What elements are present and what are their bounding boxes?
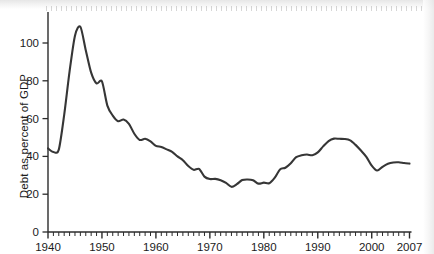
y-tick-label: 60 bbox=[26, 113, 39, 125]
debt-gdp-series-line bbox=[48, 26, 410, 187]
x-tick-label: 1990 bbox=[305, 241, 331, 253]
chart-plot-area: 020406080100 194019501960197019801990200… bbox=[0, 0, 434, 254]
x-tick-label: 1980 bbox=[251, 241, 277, 253]
x-tick-label: 2007 bbox=[397, 241, 423, 253]
x-tick-label: 1960 bbox=[143, 241, 169, 253]
y-tick-label: 100 bbox=[20, 37, 39, 49]
y-tick-label: 40 bbox=[26, 150, 39, 162]
x-tick-label: 1940 bbox=[35, 241, 61, 253]
y-tick-label: 20 bbox=[26, 188, 39, 200]
y-tick-label: 80 bbox=[26, 75, 39, 87]
y-tick-label: 0 bbox=[33, 226, 39, 238]
x-tick-label: 1950 bbox=[89, 241, 115, 253]
x-tick-label: 1970 bbox=[197, 241, 223, 253]
x-tick-group: 19401950196019701980199020002007 bbox=[35, 232, 422, 253]
debt-gdp-chart-figure: Debt as percent of GDP 020406080100 1940… bbox=[0, 0, 434, 254]
x-tick-label: 2000 bbox=[359, 241, 385, 253]
y-tick-group: 020406080100 bbox=[20, 37, 48, 238]
